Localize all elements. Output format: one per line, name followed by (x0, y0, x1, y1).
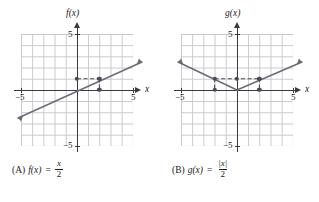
caption-function-a: f(x) (28, 165, 41, 175)
caption-function-b: g(x) (188, 165, 203, 175)
figure-panel-b: −5 5 5 −5 g(x) x (B) g(x) = |x| (160, 0, 319, 202)
fraction-denominator-a: 2 (55, 169, 64, 180)
function-curve-b (160, 0, 319, 158)
fraction-denominator-b: 2 (219, 169, 228, 180)
fraction-numerator-b: |x| (216, 159, 229, 169)
plot-area-a: −5 5 5 −5 f(x) x (0, 0, 159, 158)
function-curve-a (0, 0, 159, 158)
caption-tag-a: (A) (12, 165, 25, 175)
caption-fraction-a: x 2 (55, 159, 64, 179)
figure-panel-a: −5 5 5 −5 f(x) x (A) f(x) = x (0, 0, 159, 202)
fraction-numerator-a: x (55, 159, 63, 169)
caption-fraction-b: |x| 2 (216, 159, 229, 179)
plot-area-b: −5 5 5 −5 g(x) x (160, 0, 319, 158)
caption-equals-a: = (44, 165, 51, 175)
caption-tag-b: (B) (172, 165, 185, 175)
caption-b: (B) g(x) = |x| 2 (160, 160, 319, 180)
caption-a: (A) f(x) = x 2 (0, 160, 159, 180)
caption-equals-b: = (206, 165, 213, 175)
